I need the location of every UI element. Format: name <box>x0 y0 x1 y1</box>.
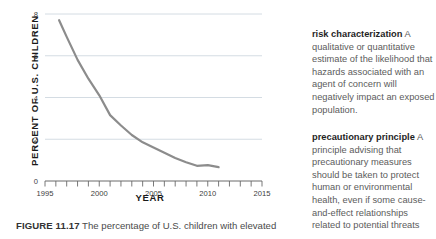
line-chart: PERCENT OF U.S. CHILDREN 8 6 4 2 0 <box>0 0 300 205</box>
glossary-entry: precautionary principle A principle advi… <box>312 131 436 232</box>
glossary-term: risk characterization <box>312 29 402 39</box>
svg-text:2: 2 <box>34 135 38 144</box>
glossary-entry: risk characterization A qualitative or q… <box>312 28 436 116</box>
figure-caption-label: FIGURE 11.17 <box>16 220 80 231</box>
figure-block: PERCENT OF U.S. CHILDREN 8 6 4 2 0 <box>0 0 300 239</box>
figure-page: PERCENT OF U.S. CHILDREN 8 6 4 2 0 <box>0 0 436 239</box>
svg-text:6: 6 <box>34 52 38 61</box>
glossary-sidebar: risk characterization A qualitative or q… <box>312 0 436 239</box>
glossary-definition: A principle advising that precautionary … <box>312 132 426 230</box>
data-series-line <box>59 20 219 167</box>
svg-text:8: 8 <box>34 10 38 19</box>
figure-caption: FIGURE 11.17 The percentage of U.S. chil… <box>16 219 300 232</box>
y-tick-labels: 8 6 4 2 0 <box>34 10 38 186</box>
svg-text:4: 4 <box>34 94 38 103</box>
x-axis-title: YEAR <box>45 192 255 203</box>
x-axis-ticks <box>45 181 262 187</box>
figure-caption-text: The percentage of U.S. children with ele… <box>82 220 276 231</box>
grid-lines <box>45 14 262 139</box>
svg-text:2015: 2015 <box>254 189 271 198</box>
chart-plot-area: 8 6 4 2 0 <box>0 0 300 205</box>
glossary-term: precautionary principle <box>312 132 415 142</box>
glossary-definition: A qualitative or quantitative estimate o… <box>312 29 435 115</box>
svg-text:0: 0 <box>34 177 38 186</box>
